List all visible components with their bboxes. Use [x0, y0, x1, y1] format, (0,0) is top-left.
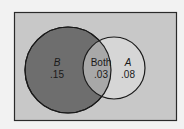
value-b: .15 — [50, 69, 64, 80]
value-both: .03 — [94, 69, 108, 80]
label-a: A — [124, 57, 132, 68]
label-both: Both — [91, 57, 112, 68]
venn-diagram: B .15 Both .03 A .08 — [0, 0, 184, 129]
label-b: B — [54, 57, 61, 68]
value-a: .08 — [121, 69, 135, 80]
